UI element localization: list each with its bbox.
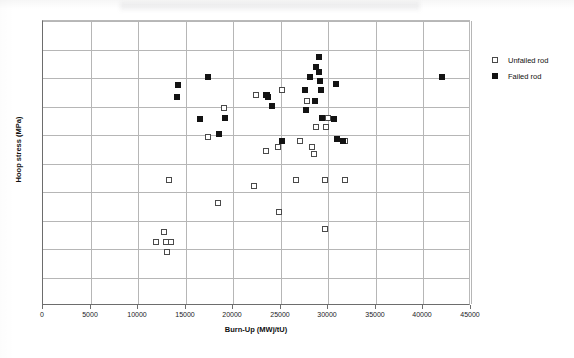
y-axis-title: Hoop stress (MPa) [14,80,23,220]
data-point-failed [340,138,346,144]
data-point-unfailed [276,209,282,215]
data-point-unfailed [323,124,329,130]
x-axis-tick-label: 40000 [402,311,442,318]
data-point-failed [312,98,318,104]
scatter-chart-figure: Burn-Up (MWj/tU) Hoop stress (MPa) Unfai… [0,0,574,358]
legend-item-unfailed-rod[interactable]: Unfailed rod [492,52,572,68]
data-point-failed [331,116,337,122]
plot-area [42,20,470,305]
x-axis-tick-label: 5000 [70,311,110,318]
chart-legend: Unfailed rod Failed rod [492,52,572,84]
gridline-horizontal [43,192,469,193]
data-point-failed [333,81,339,87]
data-point-failed [279,138,285,144]
x-axis-tick [185,305,186,309]
x-axis-tick [422,305,423,309]
gridline-horizontal [43,135,469,136]
gridline-vertical [281,21,282,304]
data-point-unfailed [311,151,317,157]
data-point-failed [302,87,308,93]
gridline-vertical [233,21,234,304]
data-point-unfailed [251,183,257,189]
legend-label-failed-rod: Failed rod [508,72,541,81]
gridline-horizontal [43,21,469,22]
gridline-vertical [423,21,424,304]
data-point-unfailed [166,177,172,183]
data-point-unfailed [221,105,227,111]
legend-swatch-unfailed-square-icon [492,57,498,63]
x-axis-tick [232,305,233,309]
data-point-failed [316,54,322,60]
data-point-unfailed [297,138,303,144]
gridline-horizontal [43,78,469,79]
data-point-failed [307,74,313,80]
data-point-failed [205,74,211,80]
x-axis-tick-label: 0 [22,311,62,318]
data-point-unfailed [205,134,211,140]
x-axis-title: Burn-Up (MWj/tU) [0,325,512,334]
data-point-failed [439,74,445,80]
x-axis-tick [280,305,281,309]
x-axis-tick-label: 30000 [307,311,347,318]
gridline-vertical [91,21,92,304]
data-point-unfailed [164,249,170,255]
gridline-horizontal [43,107,469,108]
data-point-unfailed [342,177,348,183]
gridline-horizontal [43,164,469,165]
x-axis-tick-label: 45000 [450,311,490,318]
data-point-failed [175,82,181,88]
data-point-unfailed [322,177,328,183]
data-point-unfailed [263,148,269,154]
data-point-unfailed [275,144,281,150]
gridline-horizontal [43,50,469,51]
gridline-vertical [328,21,329,304]
x-axis-tick [137,305,138,309]
legend-item-failed-rod[interactable]: Failed rod [492,68,572,84]
data-point-failed [318,87,324,93]
data-point-failed [317,78,323,84]
data-point-failed [216,131,222,137]
x-axis-tick-label: 10000 [117,311,157,318]
x-axis-tick-label: 15000 [165,311,205,318]
legend-swatch-failed-square-icon [492,73,498,79]
data-point-failed [265,94,271,100]
data-point-failed [269,103,275,109]
data-point-unfailed [313,124,319,130]
gridline-horizontal [43,221,469,222]
data-point-failed [319,115,325,121]
data-point-unfailed [161,229,167,235]
x-axis-tick-label: 35000 [355,311,395,318]
x-axis-tick-label: 20000 [212,311,252,318]
x-axis-tick [470,305,471,309]
data-point-unfailed [215,200,221,206]
data-point-failed [316,69,322,75]
data-point-unfailed [279,87,285,93]
legend-label-unfailed-rod: Unfailed rod [508,56,548,65]
x-axis-tick [375,305,376,309]
gridline-vertical [186,21,187,304]
gridline-vertical [471,21,472,304]
data-point-failed [197,116,203,122]
gridline-horizontal [43,249,469,250]
x-axis-tick [42,305,43,309]
data-point-unfailed [168,239,174,245]
gridline-vertical [376,21,377,304]
data-point-unfailed [253,92,259,98]
gridline-horizontal [43,278,469,279]
data-point-unfailed [304,98,310,104]
data-point-failed [222,115,228,121]
x-axis-tick [327,305,328,309]
gridline-vertical [138,21,139,304]
x-axis-tick-label: 25000 [260,311,300,318]
data-point-unfailed [153,239,159,245]
data-point-failed [174,94,180,100]
data-point-unfailed [293,177,299,183]
data-point-unfailed [309,144,315,150]
data-point-unfailed [322,226,328,232]
x-axis-tick [90,305,91,309]
data-point-failed [303,107,309,113]
